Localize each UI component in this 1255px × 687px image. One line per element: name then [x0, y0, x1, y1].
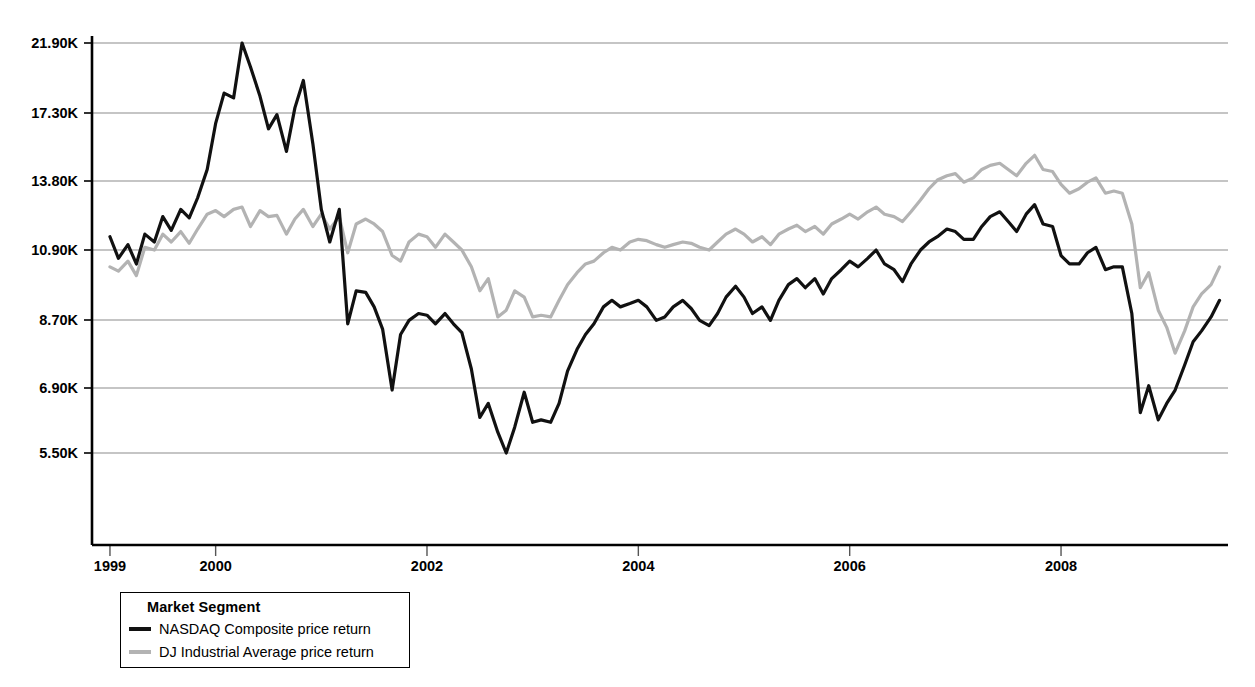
series-line — [110, 155, 1220, 353]
y-tick-label: 8.70K — [39, 312, 78, 328]
y-tick-label: 17.30K — [31, 105, 78, 121]
legend-item-nasdaq[interactable]: NASDAQ Composite price return — [129, 621, 371, 637]
y-tick-label: 10.90K — [31, 242, 78, 258]
y-tick-label: 21.90K — [31, 35, 78, 51]
y-tick-label: 5.50K — [39, 445, 78, 461]
legend-item-dj[interactable]: DJ Industrial Average price return — [129, 644, 374, 660]
x-tick-label: 1999 — [94, 558, 126, 574]
x-axis-tick-labels: 199920002002200420062008 — [94, 558, 1077, 574]
x-tick-label: 2006 — [834, 558, 866, 574]
x-tick-label: 2002 — [411, 558, 443, 574]
legend-label-nasdaq: NASDAQ Composite price return — [159, 621, 371, 637]
y-tick-label: 6.90K — [39, 380, 78, 396]
chart-container: 5.50K6.90K8.70K10.90K13.80K17.30K21.90K … — [0, 0, 1255, 687]
legend-swatch-dj-icon — [129, 650, 151, 654]
chart-legend: Market Segment NASDAQ Composite price re… — [120, 592, 410, 668]
legend-swatch-nasdaq-icon — [129, 627, 151, 631]
legend-title: Market Segment — [147, 599, 260, 615]
x-axis-ticks — [110, 545, 1061, 556]
legend-label-dj: DJ Industrial Average price return — [159, 644, 374, 660]
x-tick-label: 2000 — [200, 558, 232, 574]
x-tick-label: 2004 — [622, 558, 654, 574]
y-axis-tick-labels: 5.50K6.90K8.70K10.90K13.80K17.30K21.90K — [31, 35, 78, 461]
line-chart: 5.50K6.90K8.70K10.90K13.80K17.30K21.90K … — [0, 0, 1255, 687]
x-tick-label: 2008 — [1045, 558, 1077, 574]
series-lines — [110, 43, 1220, 453]
y-tick-label: 13.80K — [31, 173, 78, 189]
